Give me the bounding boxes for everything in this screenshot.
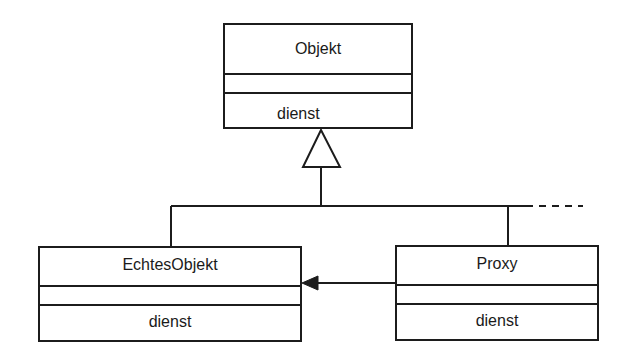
attribute-compartment [225, 73, 411, 92]
attribute-compartment [397, 284, 597, 303]
association-arrowhead-icon [302, 276, 318, 290]
operation-dienst: dienst [277, 105, 320, 123]
operation-compartment: dienst [40, 304, 300, 340]
operation-compartment: dienst [397, 303, 597, 339]
operation-dienst: dienst [40, 313, 300, 331]
uml-diagram: Objekt dienst EchtesObjekt dienst Proxy … [0, 0, 629, 364]
class-name-compartment: EchtesObjekt [40, 248, 300, 285]
attribute-compartment [40, 285, 300, 304]
class-name-compartment: Proxy [397, 247, 597, 284]
operation-dienst: dienst [397, 312, 597, 330]
operation-compartment: dienst [225, 92, 411, 127]
class-name: EchtesObjekt [40, 256, 300, 274]
class-name: Objekt [225, 40, 411, 58]
class-name: Proxy [397, 255, 597, 273]
class-proxy[interactable]: Proxy dienst [395, 245, 599, 341]
class-echtesobjekt[interactable]: EchtesObjekt dienst [38, 246, 302, 342]
generalization-triangle-icon [303, 130, 340, 167]
class-name-compartment: Objekt [225, 25, 411, 73]
class-objekt[interactable]: Objekt dienst [223, 23, 413, 129]
